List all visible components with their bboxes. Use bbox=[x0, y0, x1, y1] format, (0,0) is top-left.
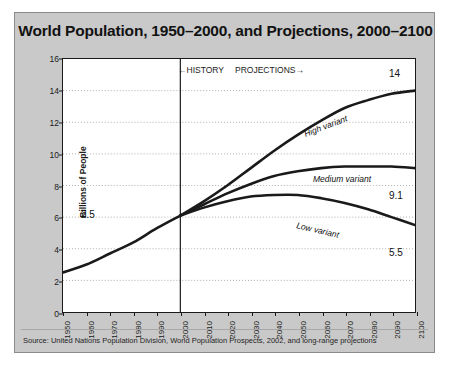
chart-canvas bbox=[63, 59, 415, 312]
chart-figure: World Population, 1950–2000, and Project… bbox=[14, 12, 435, 353]
y-tick-mark bbox=[59, 282, 63, 283]
x-tick-mark bbox=[299, 312, 300, 316]
x-tick-mark bbox=[346, 312, 347, 316]
y-tick-mark bbox=[59, 122, 63, 123]
source-divider bbox=[21, 329, 428, 330]
source-note: Source: United Nations Population Divisi… bbox=[23, 336, 376, 345]
start-value-label: 2.5 bbox=[81, 209, 95, 220]
series-line bbox=[180, 166, 415, 215]
x-tick-mark bbox=[252, 312, 253, 316]
y-tick-mark bbox=[59, 90, 63, 91]
projections-annotation: PROJECTIONS→ bbox=[235, 65, 304, 75]
x-tick-mark bbox=[205, 312, 206, 316]
low-end-value: 5.5 bbox=[389, 247, 403, 258]
x-tick-mark bbox=[393, 312, 394, 316]
high-end-value: 14 bbox=[389, 68, 400, 79]
y-axis-title: Billions of People bbox=[78, 122, 88, 242]
x-tick-mark bbox=[110, 312, 111, 316]
history-annotation: ←HISTORY bbox=[178, 65, 224, 75]
x-tick-mark bbox=[228, 312, 229, 316]
x-tick-mark bbox=[181, 312, 182, 316]
plot-area: Billions of People ←HISTORY PROJECTIONS→… bbox=[62, 58, 416, 313]
medium-end-value: 9.1 bbox=[389, 190, 403, 201]
y-tick-label: 14 bbox=[50, 86, 59, 96]
y-tick-label: 12 bbox=[50, 118, 59, 128]
series-line bbox=[180, 91, 415, 216]
y-tick-mark bbox=[59, 250, 63, 251]
y-tick-mark bbox=[59, 186, 63, 187]
x-tick-mark bbox=[87, 312, 88, 316]
x-tick-mark bbox=[370, 312, 371, 316]
y-tick-mark bbox=[59, 59, 63, 60]
x-tick-mark bbox=[323, 312, 324, 316]
y-tick-label: 10 bbox=[50, 150, 59, 160]
x-tick-mark bbox=[275, 312, 276, 316]
chart-title: World Population, 1950–2000, and Project… bbox=[15, 22, 436, 40]
y-tick-mark bbox=[59, 154, 63, 155]
x-tick-mark bbox=[157, 312, 158, 316]
x-tick-mark bbox=[417, 312, 418, 316]
x-tick-mark bbox=[134, 312, 135, 316]
medium-variant-label: Medium variant bbox=[313, 174, 371, 184]
y-tick-mark bbox=[59, 218, 63, 219]
x-tick-mark bbox=[63, 312, 64, 316]
y-tick-label: 16 bbox=[50, 54, 59, 64]
